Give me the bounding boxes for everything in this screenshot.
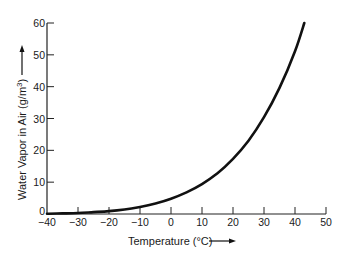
chart: −40−30−20−10010203040500102030405060 Tem… xyxy=(0,0,346,257)
y-axis-arrow xyxy=(20,45,25,75)
x-tick-label: 0 xyxy=(168,216,174,228)
y-tick-label: 20 xyxy=(33,144,45,156)
y-tick-label: 50 xyxy=(33,49,45,61)
x-tick-label: 40 xyxy=(289,216,301,228)
x-tick-label: 30 xyxy=(258,216,270,228)
data-curve xyxy=(47,23,304,214)
x-tick-label: −10 xyxy=(131,216,149,228)
x-tick-label: 10 xyxy=(196,216,208,228)
x-tick-label: −20 xyxy=(100,216,118,228)
y-tick-label: 0 xyxy=(39,205,45,217)
x-tick-label: −30 xyxy=(69,216,87,228)
x-tick-label: −40 xyxy=(38,216,56,228)
y-tick-label: 10 xyxy=(33,176,45,188)
x-tick-label: 20 xyxy=(227,216,239,228)
axes: −40−30−20−10010203040500102030405060 xyxy=(33,17,332,228)
x-tick-label: 50 xyxy=(320,216,332,228)
y-tick-label: 60 xyxy=(33,17,45,29)
x-axis-arrow xyxy=(209,239,236,244)
y-tick-label: 30 xyxy=(33,113,45,125)
y-axis-label: Water Vapor in Air (g/m3) xyxy=(15,79,28,200)
y-tick-label: 40 xyxy=(33,81,45,93)
x-axis-label: Temperature (°C) xyxy=(128,235,212,247)
